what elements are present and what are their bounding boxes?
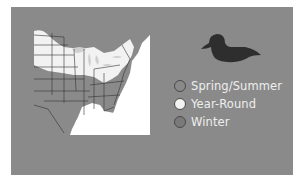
legend-label: Year-Round xyxy=(191,97,256,111)
legend-label: Spring/Summer xyxy=(191,79,282,93)
range-map-panel: Spring/Summer Year-Round Winter xyxy=(11,7,293,175)
duck-silhouette-icon xyxy=(197,31,263,65)
legend-item-spring-summer: Spring/Summer xyxy=(174,77,282,95)
legend: Spring/Summer Year-Round Winter xyxy=(174,77,282,131)
range-map xyxy=(34,25,150,135)
spring-summer-swatch-icon xyxy=(174,80,186,92)
winter-swatch-icon xyxy=(174,116,186,128)
eastern-us-map xyxy=(34,25,150,135)
legend-item-winter: Winter xyxy=(174,113,282,131)
legend-label: Winter xyxy=(191,115,230,129)
year-round-swatch-icon xyxy=(174,98,186,110)
legend-item-year-round: Year-Round xyxy=(174,95,282,113)
